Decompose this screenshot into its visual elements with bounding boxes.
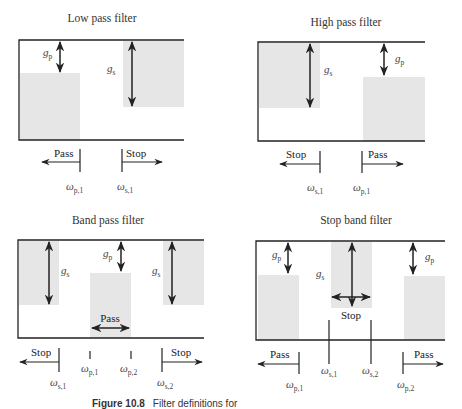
pass-label: Pass <box>54 147 74 159</box>
freq-label: ωs,1 <box>307 181 324 196</box>
panel-band-pass: Band pass filter gs gp gs Pass Stop Stop… <box>18 214 204 391</box>
gs-label: gs <box>61 264 70 279</box>
passband-region <box>258 275 299 340</box>
gp-label: gp <box>272 248 282 263</box>
passband-region <box>20 73 80 140</box>
gp-label: gp <box>103 247 113 262</box>
gs-label: gs <box>316 267 325 282</box>
pass-label: Pass <box>414 348 434 360</box>
freq-label: ωp,2 <box>120 362 137 377</box>
filter-definitions-diagram: Low pass filter gp gs Pass Stop ωp,1 ωs,… <box>0 0 462 409</box>
freq-label: ωp,1 <box>353 181 370 196</box>
pass-label: Pass <box>270 348 290 360</box>
freq-label: ωp,1 <box>81 362 98 377</box>
freq-label: ωp,1 <box>286 378 303 393</box>
panel-title: Band pass filter <box>72 214 144 227</box>
freq-label: ωp,1 <box>66 180 83 195</box>
freq-label: ωs,1 <box>50 376 67 391</box>
freq-label: ωp,2 <box>397 378 414 393</box>
stop-label: Stop <box>171 346 192 358</box>
pass-label: Pass <box>100 312 120 324</box>
passband-region <box>404 276 445 340</box>
panel-stop-band: Stop band filter gp gs Stop gp Pass Pass… <box>256 214 445 393</box>
panel-title: High pass filter <box>311 16 382 29</box>
panel-title: Low pass filter <box>68 12 137 25</box>
stopband-region <box>19 241 59 305</box>
caption-label: Figure 10.8 <box>92 398 145 409</box>
figure-caption: Figure 10.8Filter definitions for <box>92 398 237 409</box>
stopband-region <box>259 43 320 108</box>
gp-label: gp <box>43 46 53 61</box>
freq-label: ωs,2 <box>362 364 379 379</box>
caption-text: Filter definitions for <box>153 398 237 409</box>
stop-label: Stop <box>126 147 147 159</box>
gs-label: gs <box>107 62 116 77</box>
gp-label: gp <box>395 52 405 67</box>
pass-label: Pass <box>368 148 388 160</box>
panel-low-pass: Low pass filter gp gs Pass Stop ωp,1 ωs,… <box>19 12 184 195</box>
panel-high-pass: High pass filter gs gp Stop Pass ωs,1 ωp… <box>258 16 425 196</box>
stop-label: Stop <box>31 346 52 358</box>
stopband-region <box>163 241 204 305</box>
gp-label: gp <box>425 250 435 265</box>
freq-label: ωs,2 <box>157 376 174 391</box>
passband-region <box>363 77 425 141</box>
stop-label: Stop <box>286 148 307 160</box>
freq-label: ωs,1 <box>117 180 134 195</box>
gs-label: gs <box>152 264 161 279</box>
panel-title: Stop band filter <box>320 214 392 227</box>
gs-label: gs <box>324 63 333 78</box>
stop-label: Stop <box>341 309 362 321</box>
freq-label: ωs,1 <box>321 364 338 379</box>
